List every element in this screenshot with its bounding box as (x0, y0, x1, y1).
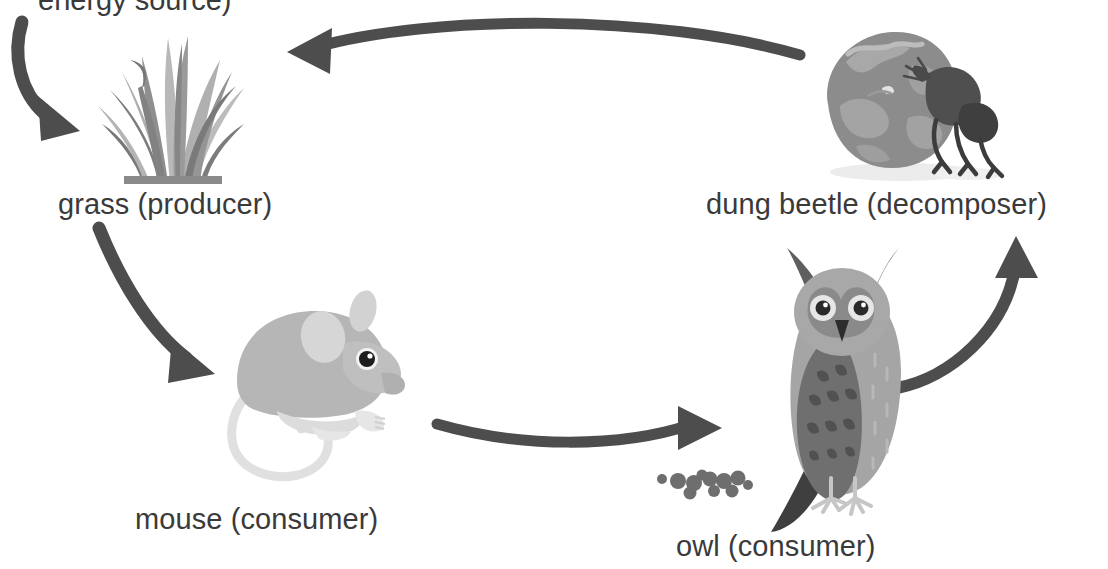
mouse-icon (215, 285, 410, 490)
arrow-sun-to-grass (18, 22, 80, 141)
dung-beetle-label: dung beetle (decomposer) (706, 190, 1047, 219)
arrow-beetle-to-grass (287, 23, 800, 74)
arrow-grass-to-mouse (99, 228, 215, 383)
grass-icon (88, 20, 253, 185)
grass-label: grass (producer) (58, 190, 272, 219)
arrow-mouse-to-owl (437, 406, 722, 450)
energy-source-title: energy source) (38, 0, 231, 15)
owl-pellets-icon (640, 455, 760, 505)
owl-icon (757, 246, 932, 541)
mouse-label: mouse (consumer) (135, 505, 378, 534)
owl-label: owl (consumer) (676, 532, 876, 561)
dung-beetle-icon (810, 22, 1015, 187)
diagram-canvas: energy source) .arrowline { fill:none; s… (0, 0, 1108, 569)
